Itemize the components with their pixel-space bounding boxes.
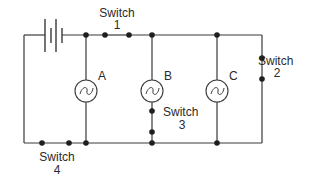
switch-2: Switch 2 <box>258 54 293 82</box>
switch-terminal-dot <box>39 140 45 146</box>
switch-3: Switch 3 <box>149 105 198 135</box>
switch-2-number: 2 <box>274 66 281 80</box>
lamp-icon <box>206 80 228 102</box>
switch-4-number: 4 <box>54 163 61 177</box>
node-dot <box>214 32 220 38</box>
switch-3-number: 3 <box>179 118 186 132</box>
bulb-a-label: A <box>98 69 106 83</box>
switch-4-label: Switch <box>39 150 74 164</box>
switch-terminal-dot <box>126 32 132 38</box>
switch-terminal-dot <box>149 108 155 114</box>
switch-terminal-dot <box>66 140 72 146</box>
bulb-b: B <box>141 69 172 102</box>
bulb-c: C <box>206 69 238 102</box>
node-dot <box>149 140 155 146</box>
switch-terminal-dot <box>102 32 108 38</box>
node-dot <box>149 32 155 38</box>
switch-4: Switch 4 <box>39 140 74 177</box>
node-dot <box>83 140 89 146</box>
circuit-diagram: A B C Switch 1 Switch 2 Switch 3 <box>0 0 309 181</box>
node-dot <box>83 32 89 38</box>
switch-3-label: Switch <box>163 105 198 119</box>
switch-1-number: 1 <box>114 18 121 32</box>
node-dot <box>214 140 220 146</box>
battery-icon <box>45 19 62 52</box>
switch-terminal-dot <box>149 129 155 135</box>
switch-terminal-dot <box>259 76 265 82</box>
bulb-a: A <box>75 69 106 102</box>
switch-1: Switch 1 <box>99 6 134 38</box>
lamp-icon <box>75 80 97 102</box>
bulb-c-label: C <box>229 69 238 83</box>
bulb-b-label: B <box>164 69 172 83</box>
lamp-icon <box>141 80 163 102</box>
